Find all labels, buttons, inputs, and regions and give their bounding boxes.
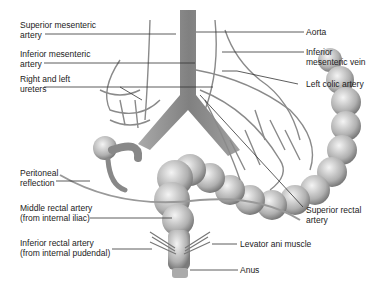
label-inferior-mesenteric-artery: Inferior mesenteric artery xyxy=(20,49,90,69)
label-superior-mesenteric-artery: Superior mesenteric artery xyxy=(20,20,96,40)
label-inferior-rectal-artery: Inferior rectal artery (from internal pu… xyxy=(20,238,110,258)
small-bowel xyxy=(93,136,138,190)
label-ureters: Right and left ureters xyxy=(20,74,70,94)
label-left-colic-artery: Left colic artery xyxy=(306,79,364,89)
label-superior-rectal-artery: Superior rectal artery xyxy=(306,205,361,225)
anus-shape xyxy=(172,268,188,278)
label-levator-ani-muscle: Levator ani muscle xyxy=(240,239,311,249)
label-anus: Anus xyxy=(240,265,259,275)
label-middle-rectal-artery: Middle rectal artery (from internal ilia… xyxy=(20,203,92,223)
label-peritoneal-reflection: Peritoneal reflection xyxy=(20,168,58,188)
label-inferior-mesenteric-vein: Inferior mesenteric vein xyxy=(306,47,366,67)
label-aorta: Aorta xyxy=(306,27,326,37)
